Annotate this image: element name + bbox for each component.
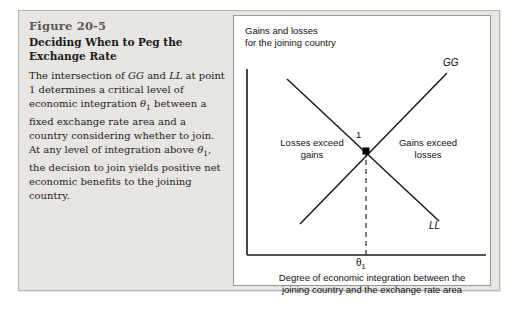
- caption-segment-1: The intersection of: [29, 70, 128, 81]
- caption-gg-term: GG: [128, 70, 144, 81]
- figure-title-line-1: Deciding When to Peg the: [29, 36, 183, 48]
- ll-curve-label: LL: [429, 220, 440, 232]
- gg-curve-label: GG: [443, 57, 459, 69]
- caption-segment-2: and: [144, 70, 169, 81]
- figure-caption-text: The intersection of GG and LL at point 1…: [29, 69, 225, 203]
- figure-panel: Figure 20-5 Deciding When to Peg the Exc…: [18, 10, 500, 291]
- chart-plot-area: Gains and losses for the joining country: [234, 16, 490, 285]
- region-label-losses-exceed-gains: Losses exceed gains: [266, 137, 358, 160]
- x-axis-caption: Degree of economic integration between t…: [258, 272, 486, 296]
- intersection-point-marker: [363, 148, 370, 155]
- figure-screenshot: Figure 20-5 Deciding When to Peg the Exc…: [0, 0, 517, 311]
- figure-title-line-2: Exchange Rate: [29, 50, 117, 62]
- chart-box: Gains and losses for the joining country: [233, 15, 491, 286]
- region-label-gains-exceed-losses: Gains exceed losses: [382, 137, 474, 160]
- theta-subscript: 1: [362, 262, 366, 271]
- x-axis-tick-theta-1: θ1: [356, 257, 366, 273]
- figure-number: Figure 20-5: [29, 19, 225, 33]
- caption-column: Figure 20-5 Deciding When to Peg the Exc…: [29, 19, 225, 281]
- figure-title: Deciding When to Peg the Exchange Rate: [29, 36, 225, 63]
- caption-ll-term: LL: [169, 70, 182, 81]
